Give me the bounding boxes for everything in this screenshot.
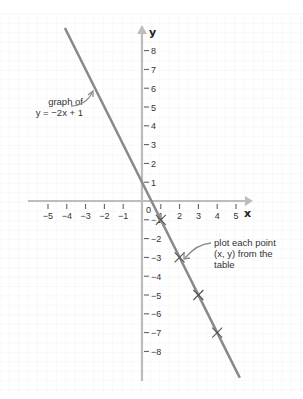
y-axis-label: y [149, 26, 156, 39]
origin-label: 0 [146, 205, 151, 215]
y-tick-label: −3 [151, 253, 161, 263]
x-tick-label: −1 [118, 211, 128, 221]
y-tick-label: −6 [151, 309, 161, 319]
y-tick-label: −2 [151, 234, 161, 244]
y-tick-label: −7 [151, 328, 161, 338]
y-tick-label: 8 [151, 46, 156, 56]
data-series [65, 28, 240, 378]
y-tick-label: −5 [151, 291, 161, 301]
linear-graph-chart: −5−4−3−2−11234587654321−1−2−3−4−5−6−7−8 … [0, 0, 303, 399]
x-tick-label: −3 [80, 211, 90, 221]
y-tick-label: −4 [151, 272, 161, 282]
x-axis-arrow-icon [245, 196, 253, 206]
annotation-points-label-line2: (x, y) from the [214, 248, 273, 259]
x-tick-label: 4 [215, 211, 220, 221]
y-tick-label: 4 [151, 121, 156, 131]
y-tick-label: 3 [151, 140, 156, 150]
annotation-points-label-line3: table [214, 259, 235, 270]
x-axis-label: x [244, 207, 251, 220]
x-tick-label: 2 [177, 211, 182, 221]
graph-line [65, 28, 240, 378]
y-axis-arrow-icon [137, 25, 147, 34]
x-tick-label: 3 [196, 211, 201, 221]
annotation-points-label-line1: plot each point [214, 237, 276, 248]
x-tick-label: −5 [43, 211, 53, 221]
x-tick-label: −4 [62, 211, 72, 221]
y-tick-label: −8 [151, 347, 161, 357]
y-tick-label: 1 [151, 178, 156, 188]
y-tick-label: 2 [151, 159, 156, 169]
y-tick-label: 5 [151, 103, 156, 113]
x-tick-label: −2 [99, 211, 109, 221]
axes [28, 25, 253, 381]
y-tick-label: 6 [151, 84, 156, 94]
x-tick-label: 5 [233, 211, 238, 221]
annotation-graph-label-line2: y = −2x + 1 [36, 107, 83, 118]
y-tick-label: 7 [151, 65, 156, 75]
